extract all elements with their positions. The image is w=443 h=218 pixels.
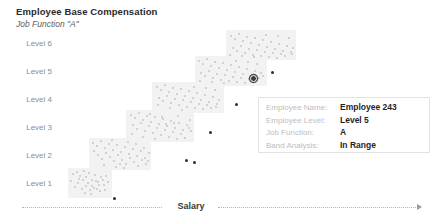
x-axis-line-left — [22, 207, 162, 208]
data-point[interactable] — [271, 71, 274, 74]
tooltip-value: Employee 243 — [340, 102, 397, 112]
tooltip-value: A — [340, 127, 346, 137]
salary-band-level-5 — [195, 56, 267, 86]
employee-tooltip: Employee Name:Employee 243Employee Level… — [258, 97, 430, 153]
tooltip-row: Band Analysis:In Range — [266, 140, 423, 153]
tooltip-label: Job Function: — [266, 128, 340, 137]
arrow-right-icon — [417, 204, 422, 210]
tooltip-row: Job Function:A — [266, 127, 423, 140]
tooltip-row: Employee Level:Level 5 — [266, 115, 423, 128]
y-axis-label-level-1: Level 1 — [6, 179, 52, 188]
page-title: Employee Base Compensation — [16, 6, 157, 17]
tooltip-label: Employee Level: — [266, 116, 340, 125]
y-axis-label-level-6: Level 6 — [6, 39, 52, 48]
data-point[interactable] — [209, 131, 212, 134]
tooltip-label: Employee Name: — [266, 103, 340, 112]
y-axis-label-level-3: Level 3 — [6, 123, 52, 132]
x-axis-line-right — [218, 207, 418, 208]
x-axis: Salary — [0, 199, 443, 218]
y-axis-label-level-4: Level 4 — [6, 95, 52, 104]
tooltip-row: Employee Name:Employee 243 — [266, 102, 423, 115]
data-point[interactable] — [235, 103, 238, 106]
data-point[interactable] — [185, 159, 188, 162]
selected-data-point[interactable] — [250, 75, 257, 82]
data-point[interactable] — [193, 161, 196, 164]
tooltip-label: Band Analysis: — [266, 141, 340, 150]
page-subtitle: Job Function "A" — [16, 19, 79, 29]
y-axis-label-level-2: Level 2 — [6, 151, 52, 160]
tooltip-value: In Range — [340, 140, 376, 150]
chart-root: Employee Base Compensation Job Function … — [0, 0, 443, 218]
tooltip-value: Level 5 — [340, 115, 369, 125]
x-axis-label: Salary — [166, 201, 216, 211]
y-axis-label-level-5: Level 5 — [6, 67, 52, 76]
